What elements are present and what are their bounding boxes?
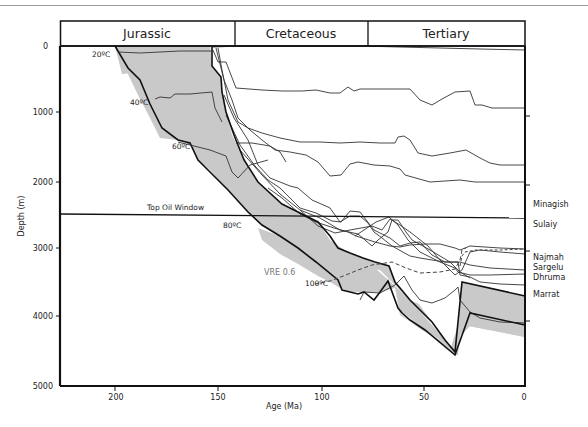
isotherm-label-100: 100ºC <box>305 279 328 288</box>
formation-label-najmah: Najmah <box>533 253 564 262</box>
y-tick-label: 0 <box>43 42 48 51</box>
isotherm-label-80: 80ºC <box>223 221 241 230</box>
x-tick-label: 150 <box>210 393 225 402</box>
top-oil-window-label: Top Oil Window <box>146 203 204 212</box>
period-label-cretaceous: Cretaceous <box>266 26 337 41</box>
period-label-jurassic: Jurassic <box>122 26 171 41</box>
y-tick-label: 3000 <box>33 244 53 253</box>
x-tick-label: 0 <box>521 393 526 402</box>
period-label-tertiary: Tertiary <box>422 26 471 41</box>
formation-label-marrat: Marrat <box>533 290 559 299</box>
x-tick-label: 50 <box>419 393 429 402</box>
x-axis-title: Age (Ma) <box>266 402 302 411</box>
isotherm-label-20: 20ºC <box>92 50 110 59</box>
burial-history-chart: Jurassic Cretaceous Tertiary 0 1000 2000… <box>0 0 588 427</box>
y-tick-label: 1000 <box>33 108 53 117</box>
formation-label-minagish: Minagish <box>533 200 569 209</box>
y-axis-title: Depth (m) <box>17 196 26 237</box>
formation-label-sulaiy: Sulaiy <box>533 220 557 229</box>
formation-label-dhruma: Dhruma <box>533 273 565 282</box>
x-tick-label: 100 <box>314 393 329 402</box>
y-tick-label: 4000 <box>33 312 53 321</box>
isotherm-label-60: 60ºC <box>172 142 190 151</box>
y-tick-label: 2000 <box>33 178 53 187</box>
vre-label: VRE 0.6 <box>264 268 295 277</box>
x-tick-label: 200 <box>108 393 123 402</box>
isotherm-label-40: 40ºC <box>130 98 148 107</box>
y-tick-label: 5000 <box>33 382 53 391</box>
formation-label-sargelu: Sargelu <box>533 263 563 272</box>
